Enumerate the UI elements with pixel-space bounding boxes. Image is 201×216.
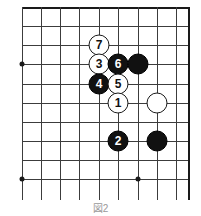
stone-black-move-4[interactable]: 4 [89, 74, 110, 95]
board-line-horizontal-9 [22, 179, 188, 180]
stone-black-3[interactable] [128, 54, 149, 75]
stone-move-number: 7 [96, 39, 103, 51]
go-board[interactable]: 7364512 [0, 0, 201, 200]
board-line-horizontal-6 [22, 122, 188, 123]
stone-white-move-5[interactable]: 5 [108, 74, 129, 95]
board-line-horizontal-1 [22, 26, 188, 27]
board-line-vertical-9 [188, 7, 190, 200]
board-line-horizontal-0 [22, 7, 188, 9]
stone-black-move-6[interactable]: 6 [108, 54, 129, 75]
figure-caption: 図2 [0, 200, 201, 216]
stone-move-number: 4 [96, 78, 103, 90]
stone-black-9[interactable] [147, 131, 168, 152]
stone-white-move-1[interactable]: 1 [108, 93, 129, 114]
stone-white-move-7[interactable]: 7 [89, 35, 110, 56]
stone-black-move-2[interactable]: 2 [108, 131, 129, 152]
stone-move-number: 5 [115, 78, 122, 90]
stone-white-move-3[interactable]: 3 [89, 54, 110, 75]
board-line-vertical-2 [60, 7, 61, 200]
board-line-vertical-1 [41, 7, 42, 200]
board-line-horizontal-8 [22, 160, 188, 161]
board-line-vertical-8 [176, 7, 177, 200]
board-line-vertical-3 [79, 7, 80, 200]
star-point-2 [136, 177, 141, 182]
board-line-vertical-6 [138, 7, 139, 200]
stone-move-number: 3 [96, 58, 103, 70]
stone-move-number: 2 [115, 135, 122, 147]
stone-move-number: 6 [115, 58, 122, 70]
star-point-0 [20, 62, 25, 67]
star-point-1 [20, 177, 25, 182]
board-line-vertical-0 [22, 7, 23, 200]
stone-move-number: 1 [115, 97, 122, 109]
stone-white-7[interactable] [147, 93, 168, 114]
go-diagram-figure: 7364512 図2 [0, 0, 201, 216]
